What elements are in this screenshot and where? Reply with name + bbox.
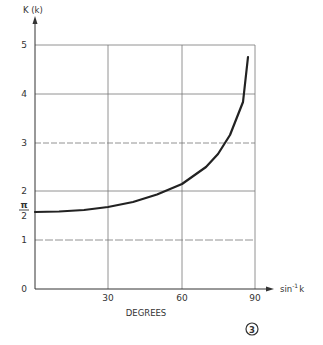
x-axis-end-label: sin-1k (280, 282, 304, 294)
y-tick-pi-over-2: π 2 (19, 200, 29, 221)
figure-number: 3 (249, 325, 255, 335)
x-tick-90: 90 (249, 293, 261, 303)
y-tick-5: 5 (21, 40, 27, 50)
curve-K-of-k (35, 57, 248, 212)
y-axis-title: K (k) (23, 5, 43, 15)
y-tick-3: 3 (21, 138, 27, 148)
k-text: k (299, 284, 304, 294)
y-tick-2: 2 (21, 186, 27, 196)
sin-text: sin (280, 284, 292, 294)
y-tick-4: 4 (21, 89, 27, 99)
y-tick-0: 0 (21, 284, 27, 294)
x-axis-title: DEGREES (126, 308, 167, 318)
x-tick-60: 60 (176, 293, 188, 303)
denominator-two: 2 (21, 211, 27, 221)
grid (35, 45, 255, 289)
x-tick-30: 30 (102, 293, 114, 303)
sup-minus-one: -1 (292, 282, 298, 289)
pi-symbol: π (20, 200, 27, 210)
y-axis-arrow-icon (33, 16, 38, 24)
figure-number-badge: 3 (246, 323, 258, 335)
axes (35, 22, 268, 289)
y-tick-1: 1 (21, 235, 27, 245)
x-axis-arrow-icon (266, 287, 274, 292)
chart: K (k) 5 4 3 2 1 0 π 2 30 60 90 sin-1k DE… (0, 0, 323, 345)
